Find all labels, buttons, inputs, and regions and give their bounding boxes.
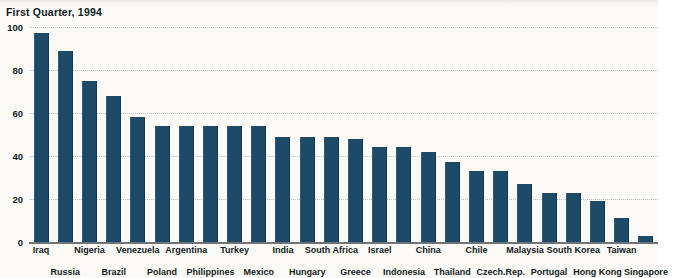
bar-slot: [29, 27, 53, 242]
bar: [493, 171, 508, 242]
bar: [445, 162, 460, 242]
bar-slot: [368, 27, 392, 242]
x-axis-line: [29, 242, 658, 244]
bar-slot: [416, 27, 440, 242]
bar: [590, 201, 605, 242]
bar: [421, 152, 436, 242]
bar: [34, 33, 49, 242]
bar-slot: [53, 27, 77, 242]
bar-slot: [343, 27, 367, 242]
bar: [58, 51, 73, 242]
y-axis-tick-80: 80: [12, 65, 23, 76]
bar-slot: [464, 27, 488, 242]
x-axis-label: Singapore: [615, 267, 673, 278]
x-axis: IraqRussiaNigeriaBrazilVenezuelaPolandAr…: [29, 245, 658, 278]
x-axis-label: Taiwan: [591, 245, 653, 256]
bar-slot: [77, 27, 101, 242]
bar-slot: [126, 27, 150, 242]
bar-slot: [392, 27, 416, 242]
y-axis-tick-20: 20: [12, 194, 23, 205]
bar: [372, 147, 387, 242]
bar: [275, 137, 290, 242]
bar-slot: [610, 27, 634, 242]
bar: [348, 139, 363, 242]
bar-slot: [561, 27, 585, 242]
bar-slot: [271, 27, 295, 242]
y-axis: 020406080100: [0, 27, 26, 242]
y-axis-tick-40: 40: [12, 151, 23, 162]
y-axis-tick-60: 60: [12, 108, 23, 119]
bar-slot: [223, 27, 247, 242]
bar-slot: [585, 27, 609, 242]
bar: [106, 96, 121, 242]
bar-slot: [537, 27, 561, 242]
bar-series: [29, 27, 658, 242]
bar: [82, 81, 97, 242]
bar-slot: [247, 27, 271, 242]
bar: [227, 126, 242, 242]
bar: [542, 193, 557, 242]
bar-slot: [440, 27, 464, 242]
bar: [469, 171, 484, 242]
bar: [300, 137, 315, 242]
bar-slot: [513, 27, 537, 242]
bar: [251, 126, 266, 242]
bar-slot: [198, 27, 222, 242]
bar-slot: [174, 27, 198, 242]
bar: [614, 218, 629, 242]
bar-slot: [150, 27, 174, 242]
bar: [517, 184, 532, 242]
bar: [155, 126, 170, 242]
bar-slot: [634, 27, 658, 242]
bar: [396, 147, 411, 242]
bar-slot: [102, 27, 126, 242]
bar: [203, 126, 218, 242]
plot-area: [29, 27, 658, 242]
bar-slot: [489, 27, 513, 242]
y-axis-tick-100: 100: [7, 22, 23, 33]
bar: [179, 126, 194, 242]
bar: [130, 117, 145, 242]
chart-title: First Quarter, 1994: [6, 6, 102, 18]
bar: [566, 193, 581, 242]
bar-slot: [295, 27, 319, 242]
bar: [324, 137, 339, 242]
bar-slot: [319, 27, 343, 242]
